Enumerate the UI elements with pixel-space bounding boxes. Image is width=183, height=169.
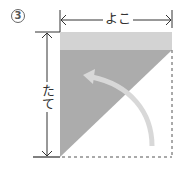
- folding-diagram: [0, 0, 183, 169]
- folded-triangle: [60, 50, 172, 157]
- width-label: よこ: [103, 12, 133, 26]
- top-strip: [60, 32, 172, 50]
- height-label: たて: [40, 82, 54, 112]
